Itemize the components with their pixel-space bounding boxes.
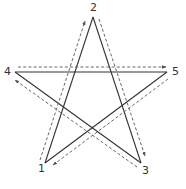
vertex-label-4: 4 bbox=[4, 65, 11, 78]
edge-2-3 bbox=[93, 17, 141, 163]
star-edges bbox=[15, 17, 167, 163]
vertex-label-5: 5 bbox=[172, 65, 179, 78]
direction-arrows bbox=[15, 19, 168, 167]
arrow-2-to-3 bbox=[99, 19, 145, 156]
vertex-label-3: 3 bbox=[142, 164, 149, 177]
edge-3-4 bbox=[15, 72, 141, 163]
vertex-label-2: 2 bbox=[90, 1, 97, 14]
arrow-5-to-1 bbox=[53, 79, 168, 165]
edge-1-2 bbox=[45, 17, 93, 163]
pentagram-diagram: 1 2 3 4 5 bbox=[0, 0, 186, 189]
edge-5-1 bbox=[45, 72, 167, 163]
arrow-1-to-2 bbox=[40, 21, 85, 160]
vertex-labels: 1 2 3 4 5 bbox=[4, 1, 179, 177]
vertex-label-1: 1 bbox=[38, 162, 45, 175]
arrow-3-to-4 bbox=[15, 80, 137, 167]
